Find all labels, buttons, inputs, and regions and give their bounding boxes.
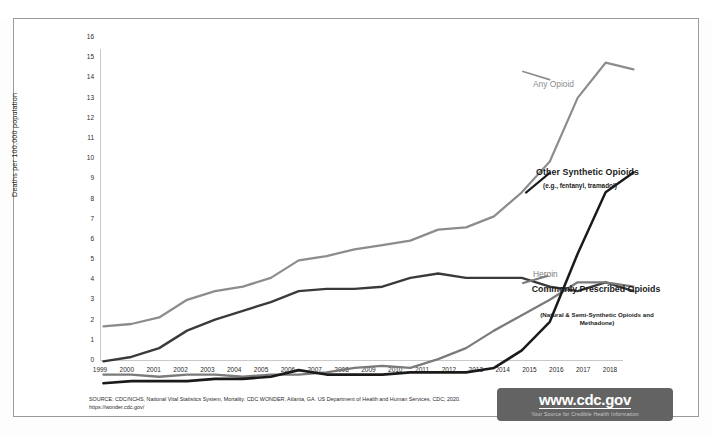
callout-any-opioid: Any Opioid (533, 79, 574, 89)
source-line-2: https://wonder.cdc.gov/ (89, 404, 489, 412)
source-line-1: SOURCE: CDC/NCHS, National Vital Statist… (89, 396, 489, 404)
callout-other-synthetic-sub: (e.g., fentanyl, tramadol) (543, 181, 617, 191)
callout-heroin: Heroin (533, 269, 558, 279)
source-note: SOURCE: CDC/NCHS, National Vital Statist… (89, 396, 489, 411)
callout-leaders (14, 19, 713, 434)
callout-other-synthetic: Other Synthetic Opioids (536, 167, 639, 177)
chart-frame: Deaths per 100,000 population 0123456789… (13, 18, 699, 417)
callout-commonly-prescribed: Commonly Prescribed Opioids (526, 284, 666, 295)
chart-page: Deaths per 100,000 population 0123456789… (0, 0, 713, 434)
callout-commonly-prescribed-sub: (Natural & Semi-Synthetic Opioids and Me… (524, 311, 670, 327)
page-top-margin (0, 0, 713, 18)
cdc-tagline-text: Your Source for Credible Health Informat… (531, 411, 639, 417)
cdc-url-text: www.cdc.gov (539, 392, 631, 409)
cdc-badge[interactable]: www.cdc.gov Your Source for Credible Hea… (497, 388, 673, 421)
